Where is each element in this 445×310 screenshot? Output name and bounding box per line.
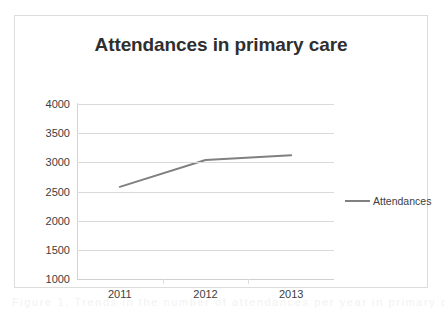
legend-swatch-attendances <box>345 200 370 202</box>
y-axis-tick-label: 3500 <box>46 127 70 139</box>
y-axis-tick-label: 4000 <box>46 98 70 110</box>
chart-legend: Attendances <box>345 195 431 207</box>
y-axis-tick-label: 2000 <box>46 215 70 227</box>
y-axis-tick-label: 1500 <box>46 244 70 256</box>
figure-page: Attendances in primary care 100015002000… <box>0 0 445 310</box>
caption-strip: Figure 1. Trends in the number of attend… <box>0 294 445 310</box>
x-axis-tick-mark <box>248 279 249 284</box>
x-axis-tick-mark <box>163 279 164 284</box>
gridline-y-4000 <box>77 104 334 105</box>
gridline-y-1000 <box>77 279 334 280</box>
y-axis-tick-label: 3000 <box>46 156 70 168</box>
series-polyline <box>120 155 291 187</box>
plot-area: 1000150020002500300035004000201120122013 <box>77 104 334 279</box>
y-axis-tick-label: 2500 <box>46 186 70 198</box>
gridline-y-3000 <box>77 162 334 163</box>
legend-label-attendances: Attendances <box>373 195 431 207</box>
gridline-y-2000 <box>77 221 334 222</box>
chart-title: Attendances in primary care <box>15 34 427 56</box>
y-axis-tick-label: 1000 <box>46 273 70 285</box>
chart-frame: Attendances in primary care 100015002000… <box>14 15 428 288</box>
gridline-y-2500 <box>77 192 334 193</box>
gridline-y-3500 <box>77 133 334 134</box>
caption-text: Figure 1. Trends in the number of attend… <box>0 294 445 310</box>
gridline-y-1500 <box>77 250 334 251</box>
